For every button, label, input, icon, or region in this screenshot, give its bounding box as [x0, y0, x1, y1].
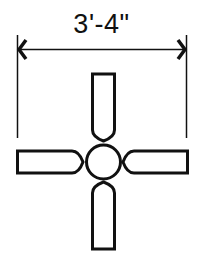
fan-blade-left — [18, 151, 84, 173]
fan-blade-top — [93, 74, 115, 141]
fan-diagram — [0, 0, 203, 266]
dimension-label: 3'-4" — [0, 9, 203, 39]
fan-blade-bottom — [93, 182, 115, 249]
fan-blade-right — [123, 151, 188, 173]
fan-hub — [87, 145, 121, 179]
